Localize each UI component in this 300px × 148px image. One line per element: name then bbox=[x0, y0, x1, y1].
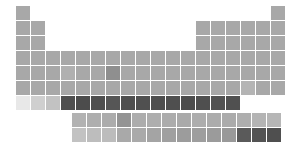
element-cell bbox=[31, 96, 45, 110]
fblock-cell bbox=[237, 113, 251, 127]
element-cell bbox=[91, 66, 105, 80]
element-cell bbox=[211, 21, 225, 35]
element-cell bbox=[16, 36, 30, 50]
element-cell bbox=[121, 51, 135, 65]
element-cell bbox=[31, 66, 45, 80]
element-cell bbox=[61, 66, 75, 80]
fblock-cell bbox=[267, 113, 281, 127]
element-cell bbox=[196, 21, 210, 35]
element-cell bbox=[196, 81, 210, 95]
fblock-cell bbox=[267, 128, 281, 142]
fblock-cell bbox=[72, 113, 86, 127]
element-cell bbox=[211, 66, 225, 80]
element-cell bbox=[16, 66, 30, 80]
fblock-cell bbox=[207, 128, 221, 142]
fblock-cell bbox=[252, 128, 266, 142]
element-cell bbox=[241, 66, 255, 80]
element-cell bbox=[61, 51, 75, 65]
element-cell bbox=[226, 51, 240, 65]
element-cell bbox=[181, 51, 195, 65]
element-cell bbox=[76, 51, 90, 65]
element-cell bbox=[181, 81, 195, 95]
element-cell bbox=[136, 81, 150, 95]
element-cell bbox=[16, 21, 30, 35]
element-cell bbox=[196, 36, 210, 50]
element-cell bbox=[181, 96, 195, 110]
fblock-cell bbox=[147, 128, 161, 142]
element-cell bbox=[61, 81, 75, 95]
element-cell bbox=[181, 66, 195, 80]
fblock-cell bbox=[117, 113, 131, 127]
element-cell bbox=[211, 96, 225, 110]
element-cell bbox=[106, 81, 120, 95]
fblock-cell bbox=[87, 128, 101, 142]
element-cell bbox=[196, 51, 210, 65]
element-cell bbox=[256, 36, 270, 50]
element-cell bbox=[76, 66, 90, 80]
element-cell bbox=[46, 66, 60, 80]
element-cell bbox=[136, 51, 150, 65]
element-cell bbox=[61, 96, 75, 110]
element-cell bbox=[256, 81, 270, 95]
element-cell bbox=[151, 81, 165, 95]
element-cell bbox=[136, 66, 150, 80]
element-cell bbox=[151, 96, 165, 110]
element-cell bbox=[31, 81, 45, 95]
element-cell bbox=[46, 51, 60, 65]
element-cell bbox=[166, 96, 180, 110]
element-cell bbox=[211, 81, 225, 95]
element-cell bbox=[31, 36, 45, 50]
element-cell bbox=[256, 66, 270, 80]
element-cell bbox=[121, 96, 135, 110]
fblock-cell bbox=[207, 113, 221, 127]
fblock-cell bbox=[237, 128, 251, 142]
element-cell bbox=[241, 81, 255, 95]
element-cell bbox=[241, 51, 255, 65]
fblock-cell bbox=[177, 113, 191, 127]
element-cell bbox=[121, 66, 135, 80]
element-cell bbox=[166, 51, 180, 65]
element-cell bbox=[151, 51, 165, 65]
element-cell bbox=[46, 81, 60, 95]
element-cell bbox=[121, 81, 135, 95]
element-cell bbox=[271, 81, 285, 95]
element-cell bbox=[91, 51, 105, 65]
element-cell bbox=[46, 96, 60, 110]
fblock-cell bbox=[162, 128, 176, 142]
element-cell bbox=[76, 96, 90, 110]
element-cell bbox=[166, 81, 180, 95]
periodic-table-heatmap bbox=[0, 0, 300, 148]
element-cell bbox=[16, 51, 30, 65]
element-cell bbox=[91, 81, 105, 95]
fblock-cell bbox=[162, 113, 176, 127]
fblock-cell bbox=[132, 113, 146, 127]
element-cell bbox=[271, 66, 285, 80]
fblock-cell bbox=[192, 128, 206, 142]
element-cell bbox=[256, 21, 270, 35]
element-cell bbox=[91, 96, 105, 110]
fblock-cell bbox=[72, 128, 86, 142]
element-cell bbox=[256, 51, 270, 65]
element-cell bbox=[226, 81, 240, 95]
element-cell bbox=[226, 36, 240, 50]
element-cell bbox=[241, 36, 255, 50]
element-cell bbox=[31, 21, 45, 35]
fblock-cell bbox=[252, 113, 266, 127]
element-cell bbox=[271, 51, 285, 65]
element-cell bbox=[196, 66, 210, 80]
element-cell bbox=[241, 21, 255, 35]
element-cell bbox=[211, 51, 225, 65]
fblock-cell bbox=[222, 113, 236, 127]
element-cell bbox=[271, 6, 285, 20]
element-cell bbox=[166, 66, 180, 80]
fblock-cell bbox=[117, 128, 131, 142]
element-cell bbox=[271, 21, 285, 35]
element-cell bbox=[226, 96, 240, 110]
element-cell bbox=[76, 81, 90, 95]
element-cell bbox=[226, 66, 240, 80]
fblock-cell bbox=[147, 113, 161, 127]
fblock-cell bbox=[192, 113, 206, 127]
fblock-cell bbox=[102, 128, 116, 142]
element-cell bbox=[211, 36, 225, 50]
element-cell bbox=[106, 66, 120, 80]
